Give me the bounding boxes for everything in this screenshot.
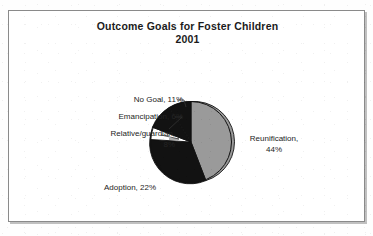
pie-label-no-goal: No Goal, 11%: [107, 95, 183, 105]
pie-label-reunification-line-2: 44%: [234, 144, 314, 155]
pie-label-emancipation: Emancipation, 6%: [77, 112, 183, 122]
pie-label-relative-guardian-line-2: 8%: [65, 139, 175, 150]
chart-frame: Outcome Goals for Foster Children 2001: [8, 10, 365, 222]
pie-label-relative-guardian: Relative/guardian, 8%: [65, 128, 175, 150]
pie-label-reunification: Reunification, 44%: [234, 133, 314, 155]
pie-label-reunification-line-1: Reunification,: [234, 133, 314, 144]
pie-plot-area: No Goal, 11% Emancipation, 6% Relative/g…: [9, 11, 366, 223]
chart-screenshot: Outcome Goals for Foster Children 2001: [0, 0, 373, 236]
pie-label-adoption: Adoption, 22%: [104, 183, 204, 193]
pie-label-relative-guardian-line-1: Relative/guardian,: [65, 128, 175, 139]
